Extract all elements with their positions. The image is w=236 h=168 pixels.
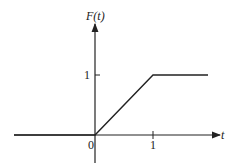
- x-tick-label-1: 1: [150, 139, 156, 151]
- y-axis-label: F(t): [86, 10, 105, 22]
- plot-area: [0, 0, 236, 168]
- series-line: [14, 75, 208, 135]
- y-tick-label-1: 1: [84, 69, 90, 81]
- chart: F(t) t 0 1 1: [0, 0, 236, 168]
- x-axis-label: t: [221, 129, 224, 141]
- origin-label: 0: [88, 139, 94, 151]
